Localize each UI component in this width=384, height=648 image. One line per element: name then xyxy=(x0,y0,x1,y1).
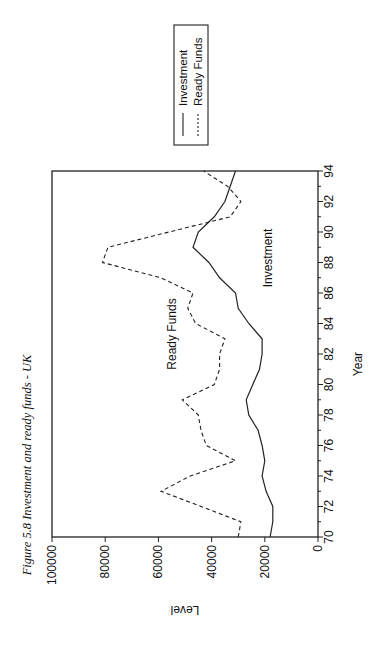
x-tick-label: 70 xyxy=(322,530,336,544)
x-tick-label: 80 xyxy=(322,378,336,392)
x-tick-label: 76 xyxy=(322,439,336,453)
plot-frame xyxy=(52,171,318,537)
x-tick-label: 84 xyxy=(322,317,336,331)
x-tick-label: 74 xyxy=(322,469,336,483)
y-tick-label: 40000 xyxy=(205,545,219,579)
x-axis-label: Year xyxy=(351,352,365,376)
x-axis-ticks: 70727476788082848688909294 xyxy=(318,164,336,544)
y-tick-label: 100000 xyxy=(45,545,59,585)
rotated-line-chart: Figure 5.8 Investment and ready funds - … xyxy=(0,0,384,648)
x-tick-label: 86 xyxy=(322,286,336,300)
x-tick-label: 78 xyxy=(322,408,336,422)
x-tick-label: 94 xyxy=(322,164,336,178)
legend: Investment Ready Funds xyxy=(174,25,208,145)
x-tick-label: 82 xyxy=(322,347,336,361)
y-axis-label: Level xyxy=(171,603,200,617)
y-tick-label: 60000 xyxy=(151,545,165,579)
y-tick-label: 80000 xyxy=(98,545,112,579)
y-tick-label: 0 xyxy=(311,545,325,552)
legend-item-investment: Investment xyxy=(177,49,189,106)
x-tick-label: 88 xyxy=(322,256,336,270)
x-tick-label: 72 xyxy=(322,500,336,514)
investment-line xyxy=(193,171,273,537)
y-axis-ticks: 020000400006000080000100000 xyxy=(45,537,325,585)
x-tick-label: 92 xyxy=(322,195,336,209)
legend-item-ready-funds: Ready Funds xyxy=(192,37,204,106)
figure-title: Figure 5.8 Investment and ready funds - … xyxy=(20,354,34,576)
investment-annotation: Investment xyxy=(261,228,275,287)
x-tick-label: 90 xyxy=(322,225,336,239)
ready-funds-annotation: Ready Funds xyxy=(165,298,179,369)
y-tick-label: 20000 xyxy=(258,545,272,579)
